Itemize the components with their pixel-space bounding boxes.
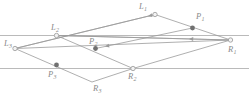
label-P1-subscript: 1 xyxy=(202,16,205,22)
label-P1: P1 xyxy=(196,12,204,21)
label-R3: R3 xyxy=(93,84,101,93)
arrowhead-arrow-P1-to-P2 xyxy=(105,44,110,48)
node-P3 xyxy=(54,63,59,68)
arrowhead-arrow-R1-to-L2 xyxy=(189,37,193,41)
label-R2: R2 xyxy=(128,72,136,81)
label-P3-subscript: 3 xyxy=(54,74,57,80)
geometry-figure: L1L2L3R1R2R3P1P2P3 xyxy=(0,0,249,104)
segment-R3-R2 xyxy=(92,69,133,83)
segment-arrow-L1-to-L3 xyxy=(15,15,155,49)
figure-canvas xyxy=(0,0,249,104)
label-L3: L3 xyxy=(4,39,12,48)
segment-arrow-R1-to-L2 xyxy=(57,36,231,41)
label-P2-subscript: 2 xyxy=(95,41,98,47)
node-L2 xyxy=(54,33,58,37)
label-L1-subscript: 1 xyxy=(144,6,147,12)
label-L1: L1 xyxy=(139,2,147,11)
node-L3 xyxy=(13,46,17,50)
arrowhead-arrow-L1-to-L3 xyxy=(148,13,153,17)
node-L1 xyxy=(153,12,157,16)
node-P1 xyxy=(190,26,195,31)
label-R1-base: R xyxy=(228,44,233,54)
label-R1: R1 xyxy=(228,45,236,54)
node-R1 xyxy=(228,38,232,42)
segment-L3-R1-long xyxy=(15,40,231,49)
label-P2-base: P xyxy=(89,36,94,46)
label-R2-subscript: 2 xyxy=(134,76,137,82)
label-P2: P2 xyxy=(89,37,97,46)
label-L3-subscript: 3 xyxy=(9,43,12,49)
label-P3: P3 xyxy=(48,70,56,79)
label-P1-base: P xyxy=(196,11,201,21)
label-P3-base: P xyxy=(48,69,53,79)
label-R3-subscript: 3 xyxy=(99,88,102,94)
label-R2-base: R xyxy=(128,71,133,81)
label-L2: L2 xyxy=(51,23,59,32)
label-R3-base: R xyxy=(93,83,98,93)
segment-R2-R1 xyxy=(133,40,231,69)
label-R1-subscript: 1 xyxy=(234,49,237,55)
label-L2-subscript: 2 xyxy=(56,27,59,33)
